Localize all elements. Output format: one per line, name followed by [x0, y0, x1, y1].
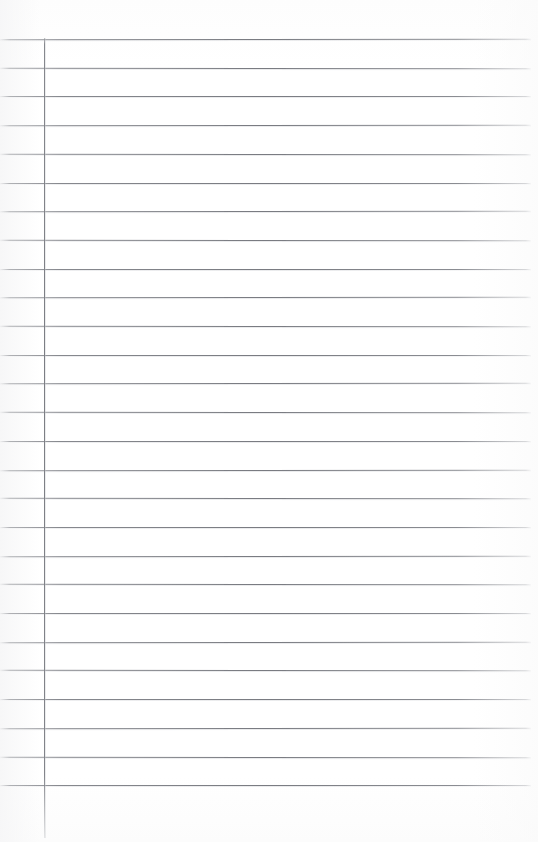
writing-area[interactable] — [45, 38, 538, 838]
scanned-notebook-page — [0, 0, 538, 842]
